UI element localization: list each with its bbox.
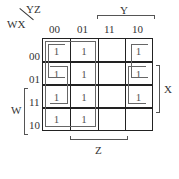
row-header: 00 [29, 51, 40, 62]
w-label: W [11, 105, 21, 116]
kmap-cell [98, 62, 125, 85]
group-wrap-mid-left [50, 66, 68, 104]
kmap-grid: 1 1 1 1 1 1 1 1 1 1 1 [42, 38, 153, 131]
z-brace [70, 136, 128, 140]
col-header: 10 [132, 24, 143, 35]
w-brace [24, 88, 28, 135]
kmap-cell [98, 85, 125, 108]
kmap-cell [98, 39, 125, 62]
row-header: 11 [29, 97, 40, 108]
z-label: Z [95, 145, 102, 156]
row-header: 10 [29, 120, 40, 131]
kmap-cell [125, 108, 152, 130]
group-wrap-mid-right [128, 66, 146, 104]
x-label: X [164, 84, 172, 95]
col-header: 11 [104, 24, 115, 35]
col-header: 00 [49, 24, 60, 35]
col-header: 01 [77, 24, 88, 35]
y-label: Y [120, 5, 128, 16]
row-variable-label: WX [7, 19, 25, 30]
col-variable-label: YZ [26, 4, 41, 15]
kmap-cell [98, 108, 125, 130]
row-header: 01 [29, 74, 40, 85]
x-brace [156, 65, 160, 113]
